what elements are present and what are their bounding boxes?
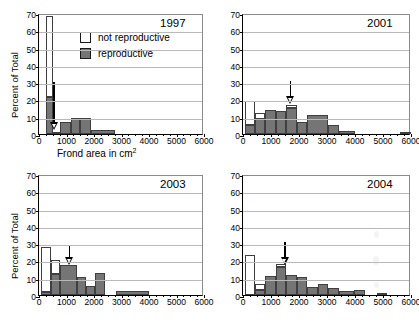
arrow-shaft — [284, 242, 285, 258]
bar-segment-not-reproductive — [245, 255, 255, 295]
gridline — [243, 32, 409, 33]
bar-segment-reproductive — [328, 125, 339, 134]
panel-1997: not reproductive reproductive 0102030405… — [0, 0, 210, 160]
x-tick-mark — [177, 295, 178, 298]
y-tick-label: 30 — [27, 80, 36, 89]
y-tick-mark — [36, 84, 39, 85]
histogram-bar — [265, 276, 276, 295]
y-tick-label: 30 — [231, 241, 240, 250]
legend-item-not-reproductive: not reproductive — [80, 32, 170, 43]
x-tick-label: 3000 — [112, 298, 131, 307]
x-minor-tick — [390, 134, 391, 136]
x-minor-tick — [115, 134, 116, 136]
x-tick-label: 6000 — [402, 137, 419, 146]
histogram-bar — [245, 255, 255, 295]
x-minor-tick — [334, 295, 335, 297]
plot-area-2001: 0102030405060700100020003000400050006000 — [242, 14, 410, 135]
x-minor-tick — [46, 134, 47, 136]
panel-title-2001: 2001 — [367, 17, 393, 29]
y-tick-label: 70 — [27, 11, 36, 20]
x-minor-tick — [404, 134, 405, 136]
y-tick-mark — [36, 245, 39, 246]
y-tick-mark — [36, 280, 39, 281]
x-tick-mark — [327, 134, 328, 137]
x-tick-mark — [149, 295, 150, 298]
gridline — [243, 245, 409, 246]
y-tick-mark — [240, 211, 243, 212]
y-tick-mark — [240, 67, 243, 68]
bar-segment-reproductive — [307, 287, 318, 295]
x-tick-label: 5000 — [167, 298, 186, 307]
x-tick-label: 2000 — [290, 298, 309, 307]
gridline — [39, 211, 202, 212]
bar-segment-not-reproductive — [41, 247, 51, 292]
x-tick-mark — [383, 134, 384, 137]
x-tick-mark — [67, 134, 68, 137]
histogram-bar — [51, 260, 61, 295]
x-minor-tick — [163, 295, 164, 297]
bar-segment-reproductive — [276, 267, 286, 295]
y-tick-mark — [36, 50, 39, 51]
gridline — [39, 67, 202, 68]
x-minor-tick — [257, 295, 258, 297]
x-minor-tick — [135, 134, 136, 136]
y-tick-mark — [36, 119, 39, 120]
scan-artifact — [373, 256, 379, 265]
bar-segment-reproductive — [71, 118, 81, 134]
bar-segment-reproductive — [276, 111, 286, 134]
arrow-shaft — [53, 82, 54, 123]
x-minor-tick — [142, 295, 143, 297]
x-minor-tick — [341, 295, 342, 297]
y-tick-label: 50 — [231, 45, 240, 54]
x-tick-label: 4000 — [346, 137, 365, 146]
gridline — [243, 50, 409, 51]
x-tick-mark — [411, 295, 412, 298]
y-tick-label: 10 — [231, 114, 240, 123]
x-minor-tick — [348, 134, 349, 136]
x-minor-tick — [278, 134, 279, 136]
y-tick-label: 20 — [27, 97, 36, 106]
x-minor-tick — [306, 295, 307, 297]
arrow-head-inner — [52, 124, 56, 128]
x-minor-tick — [376, 134, 377, 136]
x-tick-mark — [94, 134, 95, 137]
y-tick-mark — [240, 280, 243, 281]
x-tick-mark — [299, 295, 300, 298]
bar-segment-reproductive — [245, 125, 255, 134]
y-tick-label: 40 — [231, 224, 240, 233]
gridline — [243, 119, 409, 120]
x-minor-tick — [128, 134, 129, 136]
x-axis-label-superscript: 2 — [133, 147, 137, 154]
plot-area-1997: not reproductive reproductive 0102030405… — [38, 14, 203, 135]
x-axis-label-text: Frond area in cm — [57, 148, 133, 159]
x-minor-tick — [292, 295, 293, 297]
x-minor-tick — [285, 295, 286, 297]
x-tick-mark — [243, 134, 244, 137]
panel-2004: 0102030405060700100020003000400050006000… — [210, 163, 419, 324]
x-axis-label: Frond area in cm2 — [57, 147, 137, 159]
x-tick-label: 1000 — [262, 137, 281, 146]
gridline — [243, 84, 409, 85]
x-tick-label: 4000 — [346, 298, 365, 307]
panel-title-2003: 2003 — [160, 178, 186, 190]
x-minor-tick — [341, 134, 342, 136]
histogram-bar — [307, 287, 318, 295]
y-axis-label-2003: Percent of Total — [9, 213, 20, 279]
gridline — [243, 280, 409, 281]
y-axis-label-1997: Percent of Total — [9, 52, 20, 118]
y-tick-mark — [240, 119, 243, 120]
x-tick-label: 0 — [37, 137, 42, 146]
x-minor-tick — [264, 134, 265, 136]
y-tick-label: 30 — [27, 241, 36, 250]
x-minor-tick — [80, 134, 81, 136]
gridline — [243, 228, 409, 229]
gridline — [243, 262, 409, 263]
histogram-bar — [245, 101, 255, 134]
x-minor-tick — [197, 295, 198, 297]
histogram-bar — [255, 113, 265, 134]
y-tick-mark — [240, 50, 243, 51]
x-minor-tick — [250, 295, 251, 297]
y-tick-mark — [240, 15, 243, 16]
y-tick-mark — [240, 245, 243, 246]
arrow-shaft — [290, 81, 291, 97]
